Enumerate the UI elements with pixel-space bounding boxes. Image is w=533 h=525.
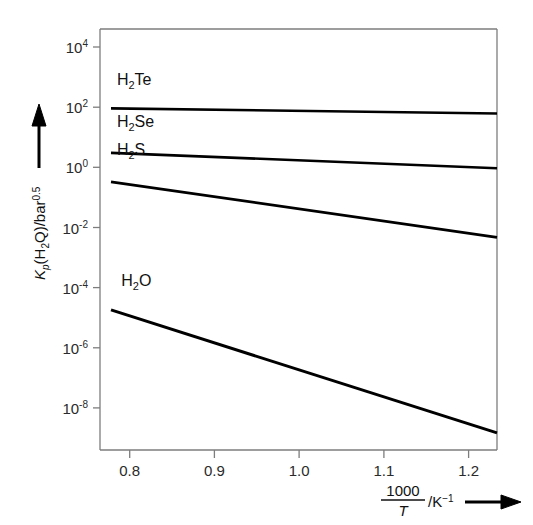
x-tick-label-2: 1.0	[289, 462, 310, 479]
x-tickmarks	[130, 450, 469, 458]
y-tick-label-m6: 10-6	[62, 339, 88, 357]
curve-h2s	[111, 182, 497, 238]
y-tick-exp-m6: -6	[79, 339, 88, 350]
x-tick-label-3: 1.1	[373, 462, 394, 479]
series-label-h2s: H2S	[117, 141, 145, 161]
y-tick-exp-m4: -4	[79, 279, 88, 290]
x-tick-label-4: 1.2	[458, 462, 479, 479]
data-curves	[111, 108, 497, 433]
y-tick-exp-2: 2	[82, 98, 88, 109]
y-tick-exp-m8: -8	[79, 399, 88, 410]
y-tick-label-4: 104	[66, 38, 89, 56]
chart-figure: 104 102 100 10-2 10-4 10-6 10-8 0.8 0.9 …	[0, 0, 533, 525]
x-tick-label-0: 0.8	[119, 462, 140, 479]
y-tick-label-m4: 10-4	[62, 279, 88, 297]
y-tick-label-2: 102	[66, 98, 89, 116]
y-tick-labels: 104 102 100 10-2 10-4 10-6 10-8	[62, 38, 88, 417]
x-axis-arrow-icon	[465, 495, 521, 509]
series-label-h2te: H2Te	[117, 71, 152, 91]
x-tick-label-1: 0.9	[204, 462, 225, 479]
series-label-h2se: H2Se	[117, 113, 154, 133]
y-tick-exp-m2: -2	[79, 219, 88, 230]
curve-h2te	[111, 108, 497, 113]
y-tick-exp-4: 4	[82, 38, 88, 49]
y-tick-label-m2: 10-2	[62, 219, 88, 237]
y-tickmarks	[93, 47, 100, 408]
x-axis-title-unit: /K−1	[428, 493, 454, 510]
x-tick-labels: 0.8 0.9 1.0 1.1 1.2	[119, 462, 479, 479]
x-axis-title-group: 1000 T /K−1	[381, 482, 521, 519]
series-labels: H2Te H2Se H2S H2O	[117, 71, 154, 293]
x-axis-title-denominator: T	[398, 502, 409, 519]
y-tick-exp-0: 0	[82, 158, 88, 169]
curve-h2o	[111, 310, 497, 433]
x-axis-title-unit-exp: −1	[442, 493, 454, 504]
x-axis-title-numerator: 1000	[386, 482, 419, 499]
y-axis-title: Kp(H2Q)/bar0.5	[31, 186, 51, 280]
y-axis-title-group: Kp(H2Q)/bar0.5	[31, 104, 51, 280]
curve-h2se	[111, 153, 497, 168]
y-axis-arrow-icon	[32, 104, 46, 168]
y-tick-label-m8: 10-8	[62, 399, 88, 417]
y-tick-label-0: 100	[66, 158, 89, 176]
axis-frame	[100, 29, 497, 450]
series-label-h2o: H2O	[121, 272, 151, 292]
log-plot-svg: 104 102 100 10-2 10-4 10-6 10-8 0.8 0.9 …	[0, 0, 533, 525]
